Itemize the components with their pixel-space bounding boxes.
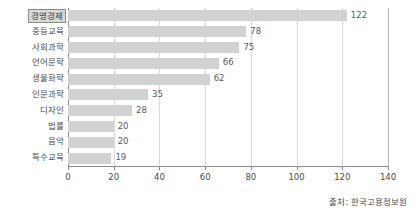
bar-row[interactable]: 19: [68, 150, 388, 166]
bar[interactable]: [68, 137, 114, 148]
x-tick-label: 60: [200, 171, 211, 183]
bar[interactable]: [68, 42, 239, 53]
bar-value-label: 19: [115, 151, 126, 163]
x-tick-mark: [205, 166, 206, 170]
bar-row[interactable]: 20: [68, 119, 388, 135]
category-label[interactable]: 인문과학: [32, 88, 64, 100]
bar[interactable]: [68, 58, 219, 69]
bar-value-label: 28: [136, 104, 147, 116]
x-tick-mark: [297, 166, 298, 170]
category-label[interactable]: 사회과학: [32, 41, 64, 53]
category-label[interactable]: 특수교육: [32, 151, 64, 163]
x-tick-label: 140: [380, 171, 396, 183]
bar[interactable]: [68, 153, 111, 164]
bar[interactable]: [68, 26, 246, 37]
bar-value-label: 78: [250, 25, 261, 37]
category-label[interactable]: 언어문학: [32, 56, 64, 68]
plot-right-border: [388, 8, 389, 166]
bar-row[interactable]: 78: [68, 24, 388, 40]
plot-area: 122787566623528202019: [68, 8, 388, 166]
category-label[interactable]: 중등교육: [32, 25, 64, 37]
bar-value-label: 35: [152, 88, 163, 100]
x-tick-mark: [388, 166, 389, 170]
category-axis-labels: 경영경제중등교육사회과학언어문학생물화학인문과학디자인법률음악특수교육: [0, 8, 66, 166]
bar[interactable]: [68, 10, 347, 21]
bar[interactable]: [68, 89, 148, 100]
bar-row[interactable]: 66: [68, 55, 388, 71]
bar[interactable]: [68, 121, 114, 132]
source-note: 출처: 한국고용정보원: [329, 195, 407, 207]
x-tick-mark: [342, 166, 343, 170]
bar-value-label: 20: [118, 135, 129, 147]
category-label[interactable]: 경영경제: [28, 9, 66, 23]
x-tick-label: 80: [245, 171, 256, 183]
category-label[interactable]: 디자인: [40, 104, 64, 116]
category-label[interactable]: 음악: [48, 135, 64, 147]
bar-row[interactable]: 122: [68, 8, 388, 24]
x-tick-label: 100: [288, 171, 304, 183]
x-tick-mark: [251, 166, 252, 170]
bar-value-label: 20: [118, 120, 129, 132]
bar-row[interactable]: 35: [68, 87, 388, 103]
bar[interactable]: [68, 105, 132, 116]
x-tick-label: 40: [154, 171, 165, 183]
bar-row[interactable]: 28: [68, 103, 388, 119]
bar-row[interactable]: 62: [68, 71, 388, 87]
x-tick-mark: [114, 166, 115, 170]
x-axis-line: [68, 166, 389, 167]
bar-row[interactable]: 75: [68, 40, 388, 56]
bar-row[interactable]: 20: [68, 134, 388, 150]
bar-value-label: 122: [351, 9, 367, 21]
x-tick-mark: [159, 166, 160, 170]
bar-value-label: 66: [223, 56, 234, 68]
x-tick-label: 120: [334, 171, 350, 183]
bar-chart: 경영경제중등교육사회과학언어문학생물화학인문과학디자인법률음악특수교육 1227…: [0, 0, 415, 211]
bar[interactable]: [68, 74, 210, 85]
bar-value-label: 62: [214, 72, 225, 84]
bar-value-label: 75: [243, 41, 254, 53]
category-label[interactable]: 생물화학: [32, 72, 64, 84]
x-tick-label: 20: [108, 171, 119, 183]
x-tick-mark: [68, 166, 69, 170]
category-label[interactable]: 법률: [48, 120, 64, 132]
x-tick-label: 0: [65, 171, 70, 183]
